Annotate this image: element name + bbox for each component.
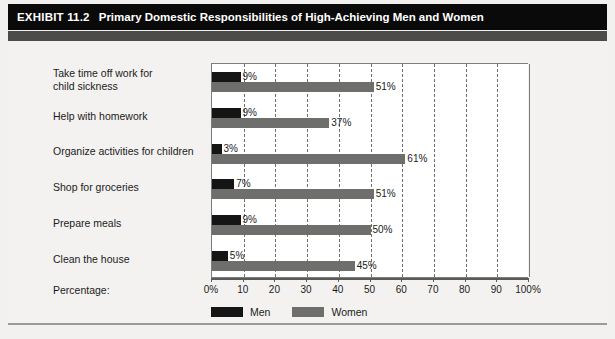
bar-value-label: 51% xyxy=(376,82,396,92)
bar-women xyxy=(212,154,405,164)
bar-women xyxy=(212,189,374,199)
category-label-column: Take time off work forchild sicknessHelp… xyxy=(53,63,208,278)
gridline-10 xyxy=(244,64,245,277)
axis-tick-label: 50 xyxy=(364,284,375,295)
gridline-90 xyxy=(497,64,498,277)
category-label-line: Clean the house xyxy=(53,253,211,266)
exhibit-header-bar: EXHIBIT 11.2 Primary Domestic Responsibi… xyxy=(8,4,607,30)
gridline-100 xyxy=(529,64,530,277)
category-label: Clean the house xyxy=(53,253,211,266)
bar-men xyxy=(212,72,241,82)
bar-women xyxy=(212,118,329,128)
axis-tick-label: 0% xyxy=(204,284,218,295)
bar-value-label: 3% xyxy=(224,144,238,154)
axis-tick-label: 30 xyxy=(301,284,312,295)
axis-tick-10 xyxy=(243,278,244,282)
exhibit-title: Primary Domestic Responsibilities of Hig… xyxy=(99,11,484,23)
plot-area xyxy=(211,63,528,278)
legend-swatch-men-icon xyxy=(211,307,243,317)
gridline-50 xyxy=(371,64,372,277)
axis-tick-0 xyxy=(211,278,212,282)
axis-tick-label: 40 xyxy=(332,284,343,295)
axis-tick-label: 60 xyxy=(396,284,407,295)
bar-value-label: 5% xyxy=(230,251,244,261)
category-label-line: Shop for groceries xyxy=(53,181,211,194)
gridline-30 xyxy=(307,64,308,277)
bar-men xyxy=(212,215,241,225)
bar-value-label: 9% xyxy=(243,108,257,118)
gridline-80 xyxy=(466,64,467,277)
chart-frame: Take time off work forchild sicknessHelp… xyxy=(8,41,607,325)
category-label-line: child sickness xyxy=(53,80,211,93)
category-label-line: Take time off work for xyxy=(53,67,211,80)
bar-value-label: 7% xyxy=(236,179,250,189)
chart-legend: Men Women xyxy=(211,306,367,318)
category-label: Help with homework xyxy=(53,110,211,123)
category-label-line: Prepare meals xyxy=(53,217,211,230)
axis-tick-label: 80 xyxy=(459,284,470,295)
category-label-line: Help with homework xyxy=(53,110,211,123)
bar-value-label: 9% xyxy=(243,215,257,225)
axis-tick-label: 100% xyxy=(515,284,541,295)
bar-men xyxy=(212,179,234,189)
bar-women xyxy=(212,82,374,92)
axis-tick-50 xyxy=(370,278,371,282)
axis-tick-20 xyxy=(274,278,275,282)
gridline-60 xyxy=(402,64,403,277)
bar-men xyxy=(212,251,228,261)
gridline-20 xyxy=(275,64,276,277)
axis-tick-label: 90 xyxy=(491,284,502,295)
axis-tick-30 xyxy=(306,278,307,282)
axis-tick-80 xyxy=(465,278,466,282)
legend-label-men: Men xyxy=(250,306,270,318)
bar-men xyxy=(212,108,241,118)
bar-men xyxy=(212,144,222,154)
axis-tick-100 xyxy=(528,278,529,282)
category-label: Take time off work forchild sickness xyxy=(53,67,211,92)
axis-tick-60 xyxy=(401,278,402,282)
legend-item-women: Women xyxy=(292,306,367,318)
axis-caption: Percentage: xyxy=(53,284,110,296)
axis-tick-40 xyxy=(338,278,339,282)
axis-tick-label: 20 xyxy=(269,284,280,295)
axis-tick-70 xyxy=(433,278,434,282)
category-label: Organize activities for children xyxy=(53,145,211,158)
bar-value-label: 51% xyxy=(376,189,396,199)
exhibit-container: EXHIBIT 11.2 Primary Domestic Responsibi… xyxy=(0,0,615,339)
bar-value-label: 50% xyxy=(373,225,393,235)
legend-label-women: Women xyxy=(331,306,367,318)
legend-swatch-women-icon xyxy=(292,307,324,317)
header-accent-bar xyxy=(8,31,607,41)
bar-value-label: 9% xyxy=(243,72,257,82)
exhibit-number-label: EXHIBIT 11.2 xyxy=(17,11,90,23)
category-label: Prepare meals xyxy=(53,217,211,230)
legend-item-men: Men xyxy=(211,306,270,318)
axis-tick-90 xyxy=(496,278,497,282)
bar-value-label: 37% xyxy=(331,118,351,128)
gridline-70 xyxy=(434,64,435,277)
axis-tick-label: 10 xyxy=(237,284,248,295)
bar-women xyxy=(212,261,355,271)
gridline-40 xyxy=(339,64,340,277)
category-label-line: Organize activities for children xyxy=(53,145,211,158)
axis-tick-label: 70 xyxy=(427,284,438,295)
bar-value-label: 61% xyxy=(407,154,427,164)
bar-women xyxy=(212,225,371,235)
bar-value-label: 45% xyxy=(357,261,377,271)
category-label: Shop for groceries xyxy=(53,181,211,194)
